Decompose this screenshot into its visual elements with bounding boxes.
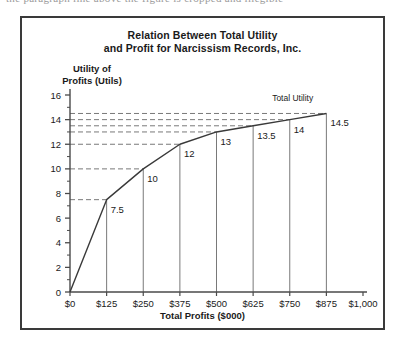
y-tick-label: 4	[56, 237, 61, 248]
y-tick-labels: 0246810121416	[50, 90, 61, 298]
data-point-label: 13	[221, 136, 232, 147]
data-point-label: 14	[294, 124, 305, 135]
x-tick-labels: $0$125$250$375$500$625$750$875$1,000	[65, 298, 378, 309]
drop-lines	[107, 113, 327, 292]
series-label: Total Utility	[272, 93, 314, 103]
y-tick-label: 0	[56, 287, 61, 298]
total-utility-curve	[70, 113, 326, 292]
x-tick-label: $500	[206, 298, 227, 309]
y-tick-label: 8	[56, 188, 61, 199]
plot-area: 0246810121416 $0$125$250$375$500$625$750…	[22, 18, 383, 328]
utility-curve	[70, 113, 326, 292]
y-tick-label: 6	[56, 213, 61, 224]
y-tick-label: 2	[56, 262, 61, 273]
series-annotation: Total Utility	[272, 93, 314, 103]
x-tick-label: $750	[279, 298, 300, 309]
data-point-label: 10	[147, 173, 158, 184]
axis-ticks	[65, 95, 363, 296]
x-tick-label: $875	[316, 298, 337, 309]
cropped-body-text: the paragraph line above the figure is c…	[6, 0, 346, 4]
data-point-label: 7.5	[111, 204, 124, 215]
x-tick-label: $250	[133, 298, 154, 309]
x-tick-label: $0	[65, 298, 76, 309]
x-tick-label: $375	[169, 298, 190, 309]
x-tick-label: $625	[243, 298, 264, 309]
chart-svg: 0246810121416 $0$125$250$375$500$625$750…	[22, 18, 383, 328]
data-point-label: 12	[184, 148, 195, 159]
dashed-guide-lines	[70, 113, 326, 199]
y-tick-label: 12	[50, 139, 61, 150]
x-tick-label: $125	[96, 298, 117, 309]
y-tick-label: 10	[50, 163, 61, 174]
figure-frame: Relation Between Total Utility and Profi…	[20, 16, 385, 330]
x-axis-title: Total Profits ($000)	[22, 310, 383, 321]
cropped-body-text-line: the paragraph line above the figure is c…	[6, 0, 346, 7]
y-tick-label: 14	[50, 114, 61, 125]
y-tick-label: 16	[50, 90, 61, 101]
x-tick-label: $1,000	[348, 298, 377, 309]
data-point-label: 13.5	[257, 130, 276, 141]
data-point-label: 14.5	[330, 117, 349, 128]
